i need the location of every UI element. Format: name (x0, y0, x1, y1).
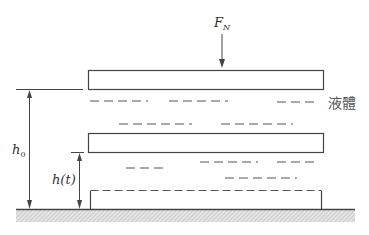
h0-arrow-head-down (27, 200, 32, 209)
squeeze-film-diagram: FN 液體 h0 h(t) (0, 0, 369, 235)
ground-hatch (16, 210, 355, 222)
ht-arrow-head-up (77, 153, 82, 161)
force-arrow-head (219, 59, 225, 68)
top-plate-current (89, 134, 324, 153)
top-plate-initial (89, 71, 324, 90)
h0-label: h0 (12, 142, 25, 159)
ht-arrow-head-down (77, 200, 82, 209)
bottom-plate (91, 191, 322, 210)
normal-force: FN (213, 15, 231, 68)
h0-arrow-head-up (27, 90, 32, 98)
liquid-dashes (90, 101, 319, 178)
ht-dimension: h(t) (52, 153, 82, 209)
ht-label: h(t) (52, 172, 76, 187)
liquid-label: 液體 (328, 95, 356, 111)
force-label: FN (213, 15, 231, 32)
h0-dimension: h0 (12, 90, 32, 209)
